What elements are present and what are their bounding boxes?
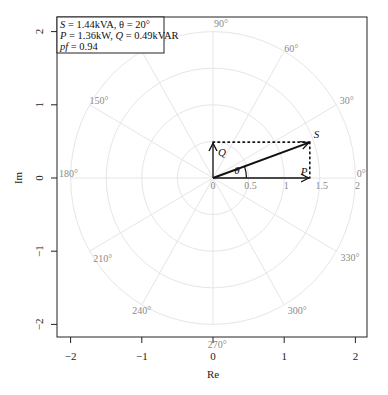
legend-line-3: pf = 0.94 bbox=[59, 41, 98, 52]
y-tick-label: −1 bbox=[33, 245, 45, 257]
theta-label: θ bbox=[234, 164, 240, 176]
y-tick-label: 0 bbox=[33, 175, 45, 181]
x-axis-label: Re bbox=[207, 368, 219, 380]
y-axis-label: Im bbox=[12, 171, 24, 184]
x-tick-label: 0 bbox=[210, 350, 216, 362]
radius-label: 1.5 bbox=[316, 180, 329, 191]
angle-label-300: 300° bbox=[288, 305, 307, 316]
angle-label-210: 210° bbox=[93, 253, 112, 264]
legend-line-1: S = 1.44kVA, θ = 20° bbox=[60, 19, 150, 30]
angle-label-0: 0° bbox=[357, 168, 366, 179]
grid-spoke bbox=[90, 105, 213, 178]
axes: −2−1012−2−1012 bbox=[33, 29, 358, 362]
radius-label: 1 bbox=[284, 180, 289, 191]
x-tick-label: 1 bbox=[281, 350, 287, 362]
y-tick-label: −2 bbox=[33, 319, 45, 331]
label-Q: Q bbox=[218, 146, 226, 158]
x-tick-label: −2 bbox=[65, 350, 77, 362]
angle-label-330: 330° bbox=[340, 252, 359, 263]
angle-label-180: 180° bbox=[59, 168, 78, 179]
grid-spoke bbox=[142, 51, 213, 178]
radius-label: 0 bbox=[211, 180, 216, 191]
angle-label-240: 240° bbox=[132, 305, 151, 316]
angle-label-30: 30° bbox=[340, 95, 354, 106]
angle-label-270: 270° bbox=[208, 339, 227, 350]
grid-spoke bbox=[90, 178, 213, 251]
label-S: S bbox=[314, 128, 320, 140]
grid-spoke bbox=[142, 178, 213, 305]
grid-spoke bbox=[213, 178, 284, 305]
legend: S = 1.44kVA, θ = 20° P = 1.36kW, Q = 0.4… bbox=[57, 17, 179, 53]
vector-S bbox=[213, 143, 309, 178]
radius-label: 2 bbox=[355, 180, 360, 191]
phasor-chart: 0°30°60°90°150°180°210°240°270°300°330°0… bbox=[0, 0, 388, 395]
label-P: P bbox=[300, 165, 308, 177]
phasor-vectors: θSPQ bbox=[213, 128, 320, 178]
grid-spoke bbox=[213, 51, 284, 178]
legend-line-2: P = 1.36kW, Q = 0.49kVAR bbox=[59, 30, 179, 41]
y-tick-label: 1 bbox=[33, 102, 45, 108]
x-tick-label: −1 bbox=[136, 350, 148, 362]
theta-arc bbox=[244, 166, 246, 178]
radius-label: 0.5 bbox=[244, 180, 257, 191]
angle-label-60: 60° bbox=[284, 43, 298, 54]
y-tick-label: 2 bbox=[33, 29, 45, 34]
x-tick-label: 2 bbox=[353, 350, 359, 362]
angle-label-150: 150° bbox=[90, 95, 109, 106]
angle-label-90: 90° bbox=[214, 18, 228, 29]
